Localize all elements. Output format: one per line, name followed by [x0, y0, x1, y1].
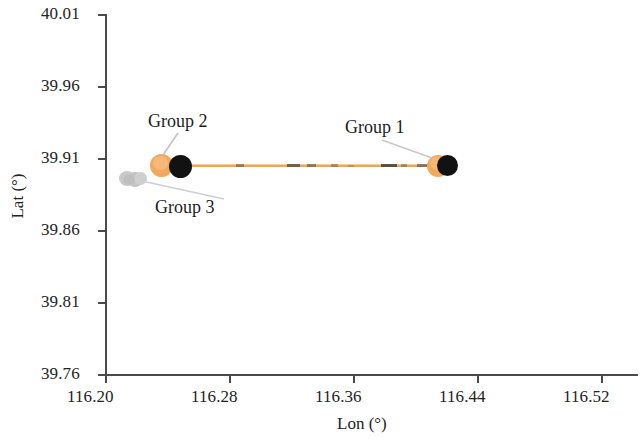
data-point-group2-orange-hi — [153, 156, 168, 170]
annotation-group-2: Group 2 — [148, 111, 208, 132]
x-tick-label: 116.20 — [67, 387, 114, 407]
scatter-chart-figure: 40.01 39.96 39.91 39.86 39.81 39.76 116.… — [0, 0, 643, 441]
route-dash-marker — [381, 164, 397, 167]
route-dash-marker — [348, 165, 354, 167]
route-dash-marker — [331, 164, 338, 166]
data-point-group1-black — [437, 155, 458, 176]
y-tick-mark — [98, 230, 106, 232]
route-dash-marker — [417, 164, 427, 166]
x-tick-mark — [105, 374, 107, 383]
data-point-group3 — [123, 175, 135, 185]
x-tick-mark — [601, 374, 603, 383]
route-dash-marker — [307, 164, 316, 166]
x-tick-label: 116.44 — [439, 387, 486, 407]
y-tick-mark — [98, 14, 106, 16]
y-tick-label: 40.01 — [41, 4, 80, 24]
leader-line-group2 — [163, 133, 178, 155]
route-dash-marker — [401, 164, 407, 166]
leader-line-group1 — [382, 140, 432, 158]
x-tick-label: 116.52 — [563, 387, 610, 407]
x-tick-label: 116.36 — [315, 387, 362, 407]
annotation-group-3: Group 3 — [155, 197, 215, 218]
y-tick-label: 39.96 — [41, 76, 80, 96]
x-tick-mark — [353, 374, 355, 383]
y-axis-spine — [105, 14, 107, 375]
route-dash-marker — [287, 164, 300, 167]
data-point-group3 — [134, 172, 147, 185]
y-tick-label: 39.86 — [41, 220, 80, 240]
x-tick-mark — [477, 374, 479, 383]
data-point-group2-black — [169, 155, 192, 178]
y-tick-mark — [98, 158, 106, 160]
y-tick-mark — [98, 86, 106, 88]
x-tick-label: 116.28 — [191, 387, 238, 407]
x-axis-title: Lon (°) — [337, 414, 387, 434]
y-axis-title: Lat (°) — [8, 166, 28, 226]
annotation-group-1: Group 1 — [345, 117, 405, 138]
y-tick-label: 39.76 — [41, 364, 80, 384]
x-axis-spine — [105, 374, 638, 376]
x-tick-mark — [229, 374, 231, 383]
y-tick-label: 39.91 — [41, 148, 80, 168]
y-tick-mark — [98, 302, 106, 304]
y-tick-label: 39.81 — [41, 292, 80, 312]
route-dash-marker — [236, 164, 244, 166]
